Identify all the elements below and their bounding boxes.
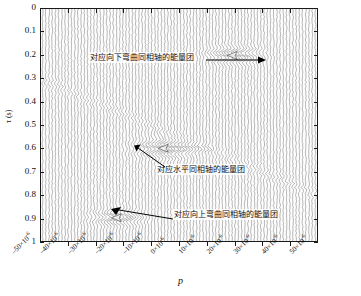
- y-tick-mark: [314, 172, 318, 173]
- wiggle-trace: [188, 9, 193, 241]
- x-tick-mark: [262, 9, 263, 13]
- wiggle-trace: [259, 9, 262, 241]
- y-tick-mark: [40, 78, 44, 79]
- wiggle-trace: [86, 9, 89, 241]
- wiggle-trace: [256, 9, 259, 241]
- wiggle-trace: [70, 9, 73, 241]
- wiggle-trace: [57, 9, 60, 241]
- x-tick-mark: [235, 9, 236, 13]
- wiggle-trace: [262, 9, 265, 241]
- wiggle-trace: [202, 9, 205, 241]
- wiggle-trace: [213, 9, 218, 241]
- seismic-wiggle-traces: [41, 9, 317, 241]
- wiggle-trace: [241, 9, 248, 241]
- y-tick-mark: [314, 125, 318, 126]
- wiggle-trace: [304, 9, 307, 241]
- wiggle-trace: [64, 9, 66, 241]
- wiggle-trace: [292, 9, 295, 241]
- x-tick-mark: [179, 9, 180, 13]
- wiggle-trace: [45, 9, 48, 241]
- wiggle-trace: [245, 9, 251, 241]
- y-tick-mark: [314, 31, 318, 32]
- y-tick-mark: [314, 148, 318, 149]
- wiggle-trace: [301, 9, 304, 241]
- y-tick-label: 0.3: [0, 73, 36, 82]
- x-tick-mark: [207, 9, 208, 13]
- y-tick-mark: [40, 172, 44, 173]
- wiggle-trace: [101, 9, 106, 241]
- y-tick-mark: [40, 195, 44, 196]
- y-tick-mark: [40, 31, 44, 32]
- y-axis-title: τ (s): [4, 110, 13, 124]
- y-tick-mark: [314, 195, 318, 196]
- wiggle-trace: [222, 9, 229, 241]
- x-tick-mark: [68, 9, 69, 13]
- wiggle-trace: [174, 9, 181, 241]
- wiggle-trace: [194, 9, 198, 241]
- wiggle-trace: [197, 9, 202, 241]
- wiggle-trace: [282, 9, 284, 241]
- wiggle-trace: [48, 9, 51, 241]
- x-axis-title: p: [0, 275, 361, 286]
- wiggle-trace: [98, 9, 103, 241]
- y-tick-label: 0.8: [0, 190, 36, 199]
- wiggle-trace: [295, 9, 297, 241]
- wiggle-trace: [279, 9, 281, 241]
- y-tick-mark: [314, 78, 318, 79]
- wiggle-trace: [207, 9, 211, 241]
- wiggle-trace: [272, 9, 275, 241]
- x-tick-mark: [123, 9, 124, 13]
- wiggle-trace: [92, 9, 96, 241]
- y-tick-mark: [314, 242, 318, 243]
- y-tick-label: 0.2: [0, 50, 36, 59]
- y-tick-mark: [40, 148, 44, 149]
- annotation-horizontal-event: 对应水平同相轴的能量团: [156, 164, 246, 175]
- wiggle-trace: [285, 9, 288, 241]
- wiggle-trace: [269, 9, 272, 241]
- y-tick-mark: [40, 219, 44, 220]
- x-tick-mark: [96, 9, 97, 13]
- wiggle-trace: [77, 9, 79, 241]
- wiggle-trace: [308, 9, 310, 241]
- wiggle-trace: [96, 9, 100, 241]
- y-tick-mark: [40, 125, 44, 126]
- wiggle-trace: [61, 9, 64, 241]
- y-tick-mark: [314, 55, 318, 56]
- y-tick-label: 0.7: [0, 167, 36, 176]
- y-tick-label: 0.9: [0, 214, 36, 223]
- annotation-arrow-right: [206, 53, 266, 67]
- annotation-arrow-upper-left: [133, 143, 167, 169]
- wiggle-trace: [248, 9, 254, 241]
- y-tick-label: 0: [0, 3, 36, 12]
- y-tick-label: 0.1: [0, 26, 36, 35]
- wiggle-trace: [191, 9, 195, 241]
- y-tick-label: 0.4: [0, 97, 36, 106]
- x-tick-mark: [290, 9, 291, 13]
- y-tick-mark: [314, 102, 318, 103]
- wiggle-trace: [181, 9, 187, 241]
- x-tick-mark: [151, 9, 152, 13]
- wiggle-trace: [289, 9, 291, 241]
- wiggle-trace: [252, 9, 257, 241]
- wiggle-trace: [185, 9, 190, 241]
- wiggle-trace: [83, 9, 85, 241]
- y-tick-mark: [314, 219, 318, 220]
- y-tick-mark: [40, 102, 44, 103]
- y-tick-mark: [40, 55, 44, 56]
- wiggle-trace: [90, 9, 92, 241]
- wiggle-trace: [205, 9, 209, 241]
- wiggle-trace: [67, 9, 69, 241]
- annotation-arrow-left: [111, 207, 173, 221]
- wiggle-trace: [276, 9, 278, 241]
- wiggle-trace: [210, 9, 214, 241]
- wiggle-trace: [178, 9, 185, 241]
- wiggle-trace: [80, 9, 82, 241]
- wiggle-trace: [216, 9, 222, 241]
- wiggle-trace: [265, 9, 268, 241]
- y-tick-label: 0.6: [0, 143, 36, 152]
- plot-area: 对应向下弯曲同相轴的能量团 对应水平同相轴的能量团 对应向上弯曲同相轴的能量团: [40, 8, 318, 242]
- wiggle-trace: [298, 9, 300, 241]
- annotation-up-curving-event: 对应向上弯曲同相轴的能量团: [173, 209, 279, 220]
- wiggle-trace: [55, 9, 57, 241]
- figure-tau-p-panel: 对应向下弯曲同相轴的能量团 对应水平同相轴的能量团 对应向上弯曲同相轴的能量团 …: [0, 0, 361, 296]
